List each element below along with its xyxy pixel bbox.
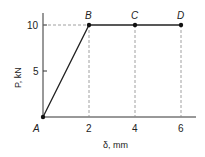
y-tick-label-10: 10 bbox=[27, 20, 39, 31]
y-tick-label-5: 5 bbox=[33, 66, 39, 77]
x-tick-label-2: 2 bbox=[86, 123, 92, 134]
x-tick-label-6: 6 bbox=[178, 123, 184, 134]
point-d-marker bbox=[179, 23, 183, 27]
x-axis-title: δ, mm bbox=[103, 140, 128, 150]
point-a-marker bbox=[41, 115, 45, 119]
y-axis-title: P, kN bbox=[13, 67, 23, 88]
guide-lines bbox=[43, 25, 181, 117]
point-d-label: D bbox=[177, 10, 184, 21]
point-b-marker bbox=[87, 23, 91, 27]
point-c-marker bbox=[133, 23, 137, 27]
point-c-label: C bbox=[131, 10, 139, 21]
x-tick-label-4: 4 bbox=[132, 123, 138, 134]
data-series-line bbox=[43, 25, 181, 117]
point-b-label: B bbox=[85, 10, 92, 21]
point-a-label: A bbox=[32, 123, 40, 134]
load-deflection-chart: A B C D 10 5 2 4 6 δ, mm P, kN bbox=[0, 0, 205, 157]
